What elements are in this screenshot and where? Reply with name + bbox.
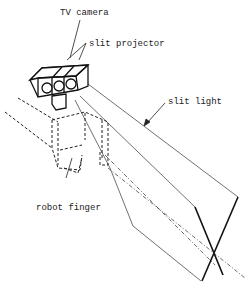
label-slit-projector: slit projector	[89, 39, 165, 49]
label-tv-camera: TV camera	[60, 8, 109, 18]
lens-left	[42, 83, 52, 93]
light-intersection	[195, 197, 238, 281]
leader-projector-left	[67, 43, 86, 60]
lens-center	[54, 81, 64, 91]
lens-right	[66, 79, 76, 89]
leader-tv-camera	[70, 20, 80, 58]
label-robot-finger: robot finger	[36, 203, 101, 213]
block-mount	[52, 94, 66, 110]
arrowhead-slit-light	[144, 119, 150, 126]
leader-projector-right	[79, 43, 86, 60]
camera-projector-block	[30, 65, 88, 110]
label-slit-light: slit light	[168, 97, 222, 107]
leader-slit-light	[147, 103, 165, 123]
leader-robot-finger	[66, 158, 72, 178]
slit-light-diagram: TV camera slit projector slit light robo…	[0, 0, 249, 283]
